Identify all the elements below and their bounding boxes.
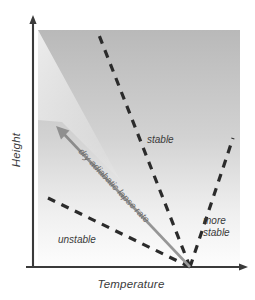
diagram-canvas: Height Temperature stable more stable un… [0, 0, 255, 300]
stable-label: stable [147, 134, 174, 145]
more-stable-label-line2: stable [203, 227, 230, 238]
x-axis-label: Temperature [98, 278, 165, 290]
more-stable-label-line1: more [203, 215, 226, 226]
y-axis-label: Height [10, 132, 22, 167]
stability-diagram: Height Temperature stable more stable un… [0, 0, 255, 300]
x-axis-arrow-icon [239, 263, 248, 270]
unstable-label: unstable [58, 234, 96, 245]
y-axis-arrow-icon [29, 15, 36, 24]
